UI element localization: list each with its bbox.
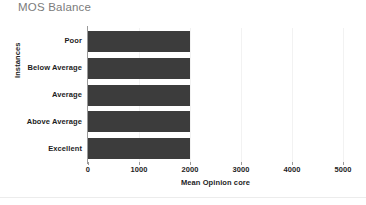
x-axis-tick-labels: 010002000300040005000	[0, 165, 366, 177]
bar-fill	[88, 31, 190, 52]
x-axis-tick-label: 2000	[181, 165, 198, 174]
bar	[88, 58, 190, 79]
bar	[88, 85, 190, 106]
x-axis-tick-label: 4000	[283, 165, 300, 174]
x-axis-tick-label: 5000	[334, 165, 351, 174]
bottom-divider	[0, 197, 366, 198]
x-axis-tick-label: 0	[86, 165, 90, 174]
bar	[88, 31, 190, 52]
y-axis-tick-label: Average	[0, 90, 82, 99]
y-axis-tick-label: Above Average	[0, 117, 82, 126]
bar-series	[88, 28, 343, 162]
bar	[88, 138, 190, 159]
chart-title: MOS Balance	[18, 1, 91, 13]
bar	[88, 111, 190, 132]
y-axis-tick-label: Excellent	[0, 144, 82, 153]
x-axis-title: Mean Opinion core	[88, 178, 343, 187]
bar-fill	[88, 58, 190, 79]
plot-area	[88, 28, 343, 162]
bar-fill	[88, 111, 190, 132]
bar-fill	[88, 85, 190, 106]
y-axis-title: Instances	[13, 18, 22, 78]
x-axis-tick-label: 3000	[232, 165, 249, 174]
chart-container: MOS Balance PoorBelow AverageAverageAbov…	[0, 0, 366, 205]
gridline	[343, 28, 344, 162]
bar-fill	[88, 138, 190, 159]
x-axis-tick-label: 1000	[130, 165, 147, 174]
